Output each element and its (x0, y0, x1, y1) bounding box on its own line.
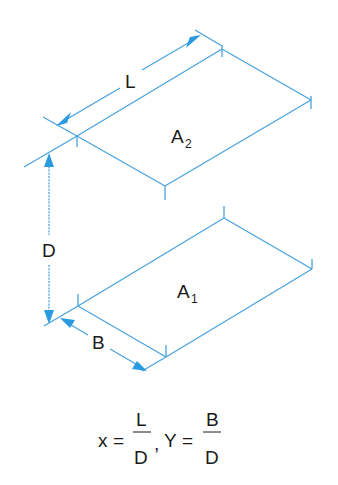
area-top-label: A (171, 126, 184, 147)
formula-x-numerator: L (136, 409, 147, 430)
distance-dimension (44, 153, 54, 324)
formula: x = L D , Y = B D (98, 409, 221, 468)
area-top-subscript: 2 (185, 137, 192, 151)
width-label: B (92, 332, 105, 353)
formula-x-var: x (98, 430, 108, 451)
formula-x-denominator: D (134, 447, 148, 468)
formula-equals-1: = (113, 430, 124, 451)
area-bottom-label: A (177, 281, 190, 302)
view-factor-diagram: L A 2 D A 1 B x = L D , Y = B D (0, 0, 338, 485)
formula-y-numerator: B (206, 409, 219, 430)
formula-y-var: Y (164, 430, 177, 451)
length-label: L (125, 71, 136, 92)
area-bottom-subscript: 1 (191, 292, 198, 306)
formula-y-denominator: D (205, 447, 219, 468)
formula-comma: , (154, 433, 159, 454)
formula-equals-2: = (182, 430, 193, 451)
distance-label: D (42, 240, 56, 261)
